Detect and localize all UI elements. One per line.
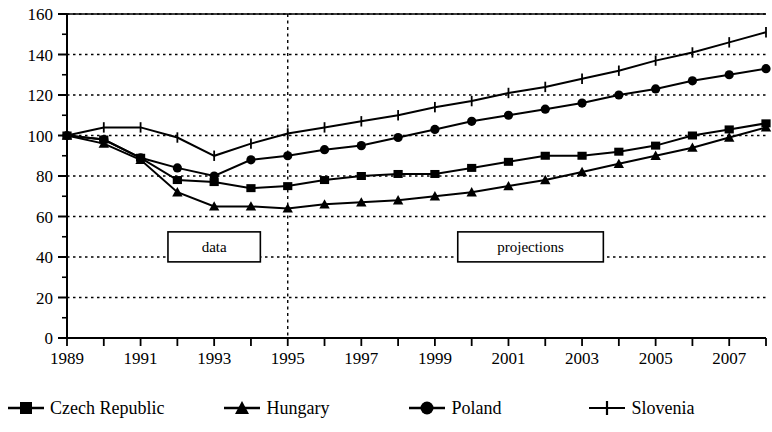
plot-area: 020406080100120140160 198919911993199519… — [0, 0, 772, 380]
svg-text:80: 80 — [36, 167, 53, 186]
triangle-marker-icon — [222, 398, 262, 418]
svg-text:1991: 1991 — [124, 349, 158, 368]
svg-text:projections: projections — [497, 239, 564, 255]
plus-marker-icon — [587, 398, 627, 418]
y-axis-ticks — [58, 14, 67, 338]
svg-text:140: 140 — [28, 46, 54, 65]
legend-label-czech-republic: Czech Republic — [46, 398, 164, 419]
legend-item-czech-republic: Czech Republic — [6, 384, 164, 432]
svg-text:40: 40 — [36, 248, 53, 267]
series-poland — [62, 64, 770, 181]
svg-text:60: 60 — [36, 208, 53, 227]
svg-text:1989: 1989 — [50, 349, 84, 368]
legend-label-hungary: Hungary — [262, 398, 329, 419]
svg-text:2003: 2003 — [565, 349, 599, 368]
svg-text:data: data — [202, 239, 227, 255]
svg-text:100: 100 — [28, 127, 54, 146]
svg-text:160: 160 — [28, 5, 54, 24]
x-axis-ticks — [67, 338, 766, 346]
svg-text:120: 120 — [28, 86, 54, 105]
circle-marker-icon — [407, 398, 447, 418]
legend-item-slovenia: Slovenia — [587, 384, 694, 432]
legend-item-hungary: Hungary — [222, 384, 329, 432]
svg-text:1993: 1993 — [197, 349, 231, 368]
svg-text:1995: 1995 — [271, 349, 305, 368]
svg-text:2005: 2005 — [639, 349, 673, 368]
line-chart-svg: 020406080100120140160 198919911993199519… — [0, 0, 772, 380]
series-czech-republic — [62, 119, 770, 192]
svg-text:0: 0 — [45, 329, 54, 348]
svg-text:20: 20 — [36, 289, 53, 308]
legend-label-slovenia: Slovenia — [627, 398, 694, 419]
square-marker-icon — [6, 398, 46, 418]
svg-text:2007: 2007 — [712, 349, 747, 368]
legend-item-poland: Poland — [407, 384, 501, 432]
chart-figure: 020406080100120140160 198919911993199519… — [0, 0, 772, 432]
svg-text:1999: 1999 — [418, 349, 452, 368]
svg-text:1997: 1997 — [344, 349, 379, 368]
svg-text:2001: 2001 — [491, 349, 525, 368]
y-axis-tick-labels: 020406080100120140160 — [28, 5, 54, 348]
legend-label-poland: Poland — [447, 398, 501, 419]
series-slovenia — [67, 27, 766, 161]
chart-legend: Czech Republic Hungary Poland — [0, 384, 772, 432]
x-axis-tick-labels: 1989199119931995199719992001200320052007 — [50, 349, 747, 368]
